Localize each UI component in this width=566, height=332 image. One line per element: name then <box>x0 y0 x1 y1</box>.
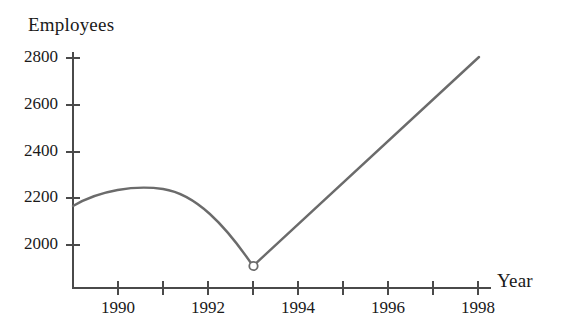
x-tick-label-1996: 1996 <box>358 298 418 318</box>
employees-vs-year-chart: Employees Year 2800 2600 2400 2200 2000 … <box>0 0 566 332</box>
y-tick-label-2800: 2800 <box>0 47 58 67</box>
minimum-point-marker <box>249 262 257 270</box>
x-tick-label-1992: 1992 <box>178 298 238 318</box>
x-axis-title: Year <box>497 270 533 292</box>
y-tick-label-2600: 2600 <box>0 94 58 114</box>
x-tick-label-1994: 1994 <box>268 298 328 318</box>
chart-plot-area <box>0 0 566 332</box>
y-tick-label-2200: 2200 <box>0 187 58 207</box>
employees-curve-declining-segment <box>73 188 253 266</box>
x-tick-label-1998: 1998 <box>448 298 508 318</box>
y-axis-title: Employees <box>28 14 114 36</box>
employees-line-rising-segment <box>253 57 479 266</box>
y-tick-label-2400: 2400 <box>0 141 58 161</box>
y-tick-label-2000: 2000 <box>0 234 58 254</box>
x-tick-label-1990: 1990 <box>88 298 148 318</box>
